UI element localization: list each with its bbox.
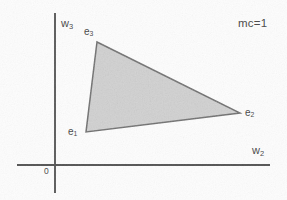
y-axis-label: w3 — [61, 18, 73, 30]
x-axis-label: w2 — [252, 145, 264, 157]
origin-label: 0 — [44, 167, 49, 176]
figure-canvas: w3 w2 0 mc=1 e3 e2 e1 — [0, 0, 287, 200]
mc-annotation-label: mc=1 — [238, 18, 267, 30]
region-group — [86, 42, 240, 132]
vertex-label-e1: e1 — [68, 127, 77, 138]
vertex-label-e2: e2 — [245, 108, 254, 119]
vertex-label-e3: e3 — [84, 27, 93, 38]
shaded-triangle-region — [86, 42, 240, 132]
